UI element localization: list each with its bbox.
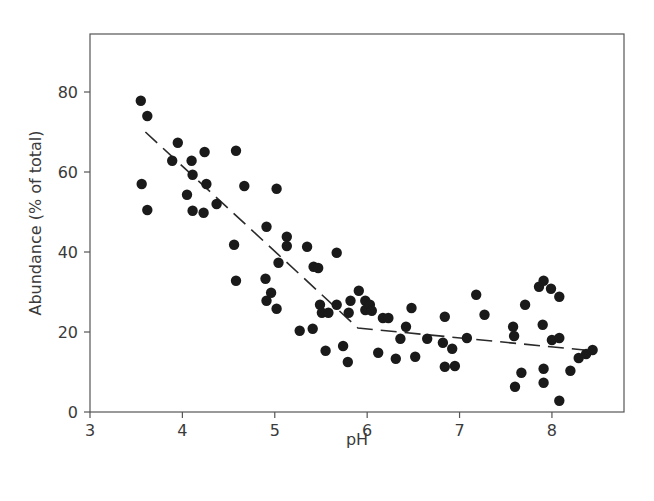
x-axis-label: pH [346, 430, 368, 449]
data-point [438, 338, 448, 348]
x-axis: 345678 [85, 412, 557, 440]
data-point [313, 263, 323, 273]
data-point [323, 308, 333, 318]
data-point [282, 241, 292, 251]
data-point [538, 276, 548, 286]
data-point [554, 292, 564, 302]
data-point [282, 232, 292, 242]
data-point [239, 181, 249, 191]
data-point [142, 111, 152, 121]
data-point [538, 364, 548, 374]
y-tick-label: 60 [58, 163, 78, 182]
data-point [338, 341, 348, 351]
data-point [565, 366, 575, 376]
data-point [440, 362, 450, 372]
data-point [271, 184, 281, 194]
data-point [211, 199, 221, 209]
data-point [471, 290, 481, 300]
data-point [266, 288, 276, 298]
data-point [271, 304, 281, 314]
data-point [508, 322, 518, 332]
data-point [516, 368, 526, 378]
data-point [422, 334, 432, 344]
plot-frame [90, 34, 624, 412]
data-point [182, 190, 192, 200]
data-point [302, 242, 312, 252]
data-point [509, 331, 519, 341]
data-point [198, 208, 208, 218]
series-layer [136, 96, 598, 406]
data-point [187, 170, 197, 180]
data-point [295, 326, 305, 336]
x-tick-label: 3 [85, 421, 95, 440]
data-point [395, 334, 405, 344]
data-point [447, 344, 457, 354]
data-point [479, 310, 489, 320]
data-point [343, 357, 353, 367]
data-point [261, 222, 271, 232]
y-axis: 020406080 [58, 83, 90, 422]
data-point [167, 156, 177, 166]
y-tick-label: 40 [58, 243, 78, 262]
y-tick-label: 20 [58, 323, 78, 342]
data-point [229, 240, 239, 250]
data-point [520, 300, 530, 310]
data-point [320, 346, 330, 356]
data-point [187, 206, 197, 216]
data-point [554, 396, 564, 406]
data-point [354, 286, 364, 296]
data-point [587, 345, 597, 355]
data-point [231, 276, 241, 286]
plot-area: 345678 020406080 [58, 34, 624, 440]
data-point [401, 322, 411, 332]
data-point [538, 320, 548, 330]
data-point [137, 179, 147, 189]
data-point [345, 296, 355, 306]
data-point [391, 354, 401, 364]
scatter-chart: 345678 020406080 pH Abundance (% of tota… [0, 0, 654, 501]
data-point [173, 138, 183, 148]
data-point [538, 378, 548, 388]
data-point [410, 352, 420, 362]
data-point [344, 308, 354, 318]
data-point [367, 306, 377, 316]
data-point [142, 205, 152, 215]
data-point [199, 147, 209, 157]
x-tick-label: 7 [454, 421, 464, 440]
y-tick-label: 80 [58, 83, 78, 102]
data-point [406, 303, 416, 313]
y-axis-label: Abundance (% of total) [26, 130, 45, 315]
data-point [546, 284, 556, 294]
data-point [273, 258, 283, 268]
x-tick-label: 4 [177, 421, 187, 440]
data-point [554, 333, 564, 343]
data-point [260, 274, 270, 284]
data-point [186, 156, 196, 166]
x-tick-label: 5 [270, 421, 280, 440]
data-point [231, 146, 241, 156]
data-point [383, 313, 393, 323]
data-point [510, 382, 520, 392]
trend-line [145, 132, 584, 350]
data-point [332, 248, 342, 258]
data-point [308, 324, 318, 334]
data-point [373, 348, 383, 358]
data-point [462, 333, 472, 343]
data-point [136, 96, 146, 106]
y-tick-label: 0 [68, 403, 78, 422]
data-point [440, 312, 450, 322]
data-point [201, 179, 211, 189]
scatter-series [136, 96, 598, 406]
data-point [450, 361, 460, 371]
x-tick-label: 8 [547, 421, 557, 440]
data-point [332, 300, 342, 310]
